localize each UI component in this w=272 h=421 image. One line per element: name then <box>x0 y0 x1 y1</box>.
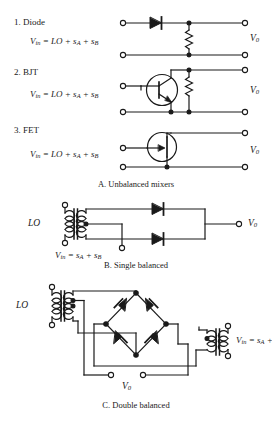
caption-c: C. Double balanced <box>0 401 272 410</box>
db-ring-edge-bottom-left <box>106 324 136 355</box>
single-balanced-output-label: V0 <box>248 219 257 229</box>
db-lo-primary-winding <box>52 293 62 320</box>
voc-sub: 0 <box>128 384 131 391</box>
circuit-schematic-canvas <box>0 0 272 421</box>
diode-input-bottom-terminal <box>120 52 125 57</box>
db-vin-top-terminal <box>225 323 230 328</box>
eq2-mid: + s <box>81 89 95 99</box>
bjt-node-bottom <box>187 110 191 114</box>
bjt-output-bottom-terminal <box>242 109 247 114</box>
double-balanced-output-label: V0 <box>122 382 131 392</box>
sb-lo-top-terminal <box>62 202 67 207</box>
diode-node-top <box>187 21 191 25</box>
eqc-mid: + s <box>264 335 272 345</box>
circuit-fet <box>120 130 247 169</box>
db-vin-primary-winding <box>207 331 217 352</box>
mixer-circuits-figure: 1. Diode Vin = LO + sA + sB V0 2. BJT Vi… <box>0 0 272 421</box>
double-balanced-input-equation: Vin = sA + sB <box>236 336 272 346</box>
bjt-envelope-circle <box>147 75 178 106</box>
circuit-diode <box>120 17 247 58</box>
fet-gate-arrow <box>159 145 166 151</box>
fet-node-source <box>165 165 169 169</box>
circuit-3-equation: Vin = LO + sA + sB <box>30 150 99 160</box>
diode-input-top-terminal <box>120 20 125 25</box>
eq2-rhs: = LO + s <box>40 89 76 99</box>
db-ring-edge-top-right <box>136 293 166 324</box>
bjt-load-resistor <box>186 77 193 96</box>
eqb-sub2: B <box>98 253 102 260</box>
vo1-sub: 0 <box>256 36 259 43</box>
circuit-3-output-label: V0 <box>250 146 259 156</box>
circuit-3-heading: 3. FET <box>14 126 39 135</box>
eqc-rhs: = s <box>246 335 260 345</box>
vo3-sub: 0 <box>256 148 259 155</box>
bjt-output-top-terminal <box>242 67 247 72</box>
circuit-1-output-label: V0 <box>250 34 259 44</box>
circuit-bjt <box>120 67 247 114</box>
db-vin-bottom-terminal <box>225 353 230 358</box>
eq1-sub2: B <box>95 39 99 46</box>
db-lo-tap-node-2 <box>71 304 75 308</box>
diode-symbol-triangle <box>150 18 161 29</box>
eq1-rhs: = LO + s <box>40 36 76 46</box>
vob-sub: 0 <box>254 221 257 228</box>
sb-input-terminal <box>119 245 124 250</box>
eq3-mid: + s <box>81 149 95 159</box>
db-ring-edge-bottom-right <box>136 324 166 355</box>
circuit-2-equation: Vin = LO + sA + sB <box>30 90 99 100</box>
db-lo-top-terminal <box>49 284 54 289</box>
diode-output-top-terminal <box>242 20 247 25</box>
diode-load-resistor <box>186 30 193 49</box>
eq1-mid: + s <box>81 36 95 46</box>
single-balanced-input-equation: Vin = sA + sB <box>55 251 101 261</box>
vo2-sub: 0 <box>256 88 259 95</box>
fet-output-bottom-terminal <box>242 164 247 169</box>
sb-lo-bottom-terminal <box>62 240 67 245</box>
sb-output-terminal <box>236 221 241 226</box>
bjt-input-bottom-terminal <box>120 109 125 114</box>
circuit-2-output-label: V0 <box>250 86 259 96</box>
diode-node-bottom <box>187 53 191 57</box>
eq2-sub2: B <box>95 92 99 99</box>
double-balanced-lo-label: LO <box>16 301 28 311</box>
bjt-node-emitter <box>169 110 173 114</box>
caption-a: A. Unbalanced mixers <box>0 180 272 189</box>
circuit-2-heading: 2. BJT <box>14 68 38 77</box>
sb-diode-upper-triangle <box>152 204 163 215</box>
db-vin-pri-node <box>205 337 209 341</box>
sb-diode-lower-triangle <box>152 234 163 245</box>
circuit-1-equation: Vin = LO + sA + sB <box>30 37 99 47</box>
fet-input-bottom-terminal <box>120 164 125 169</box>
single-balanced-lo-label: LO <box>28 219 40 229</box>
diode-output-bottom-terminal <box>242 52 247 57</box>
circuit-double-balanced <box>49 284 230 377</box>
eqb-mid: + s <box>83 250 97 260</box>
eq3-rhs: = LO + s <box>40 149 76 159</box>
circuit-single-balanced <box>62 202 241 250</box>
eq3-sub2: B <box>95 152 99 159</box>
db-lo-bottom-terminal <box>49 322 54 327</box>
db-output-right-terminal <box>140 372 145 377</box>
eqb-rhs: = s <box>65 250 79 260</box>
caption-b: B. Single balanced <box>0 261 272 270</box>
db-output-left-terminal <box>108 372 113 377</box>
fet-input-terminal <box>120 145 125 150</box>
fet-output-top-terminal <box>242 130 247 135</box>
sb-primary-winding <box>65 211 75 238</box>
circuit-1-heading: 1. Diode <box>14 18 45 27</box>
db-diode-br-triangle <box>150 331 158 344</box>
bjt-input-terminal <box>120 83 125 88</box>
bjt-node-top <box>187 68 191 72</box>
db-ring-edge-top-left <box>106 293 136 324</box>
bjt-collector-lead <box>159 78 171 86</box>
